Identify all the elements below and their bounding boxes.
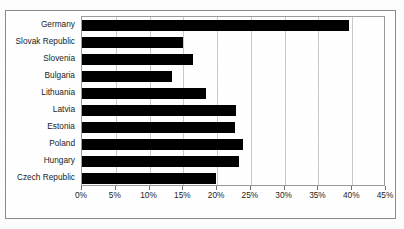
tickmark	[149, 186, 150, 190]
bar-row	[82, 139, 384, 150]
tickmark	[351, 186, 352, 190]
bar-row	[82, 37, 384, 48]
category-label: Slovak Republic	[16, 36, 76, 47]
bar-row	[82, 88, 384, 99]
bar-row	[82, 156, 384, 167]
chart-figure: GermanySlovak RepublicSloveniaBulgariaLi…	[0, 0, 404, 229]
x-tick-label: 15%	[174, 190, 191, 200]
bar	[82, 88, 206, 99]
tickmark	[81, 186, 82, 190]
category-label: Latvia	[53, 104, 75, 115]
bar	[82, 54, 193, 65]
bar-row	[82, 71, 384, 82]
x-tick-label: 45%	[377, 190, 394, 200]
bar-row	[82, 105, 384, 116]
plot-area	[81, 16, 385, 186]
tickmark	[284, 186, 285, 190]
x-tick-label: 0%	[75, 190, 87, 200]
bar	[82, 71, 172, 82]
x-tick-label: 40%	[343, 190, 360, 200]
bars-layer	[82, 17, 384, 185]
category-axis-labels: GermanySlovak RepublicSloveniaBulgariaLi…	[0, 16, 78, 186]
category-label: Lithuania	[41, 87, 75, 98]
x-tick-label: 25%	[242, 190, 259, 200]
bar-row	[82, 122, 384, 133]
category-label: Bulgaria	[45, 70, 75, 81]
bar	[82, 139, 243, 150]
category-label: Poland	[49, 138, 75, 149]
tickmark	[317, 186, 318, 190]
bar	[82, 20, 349, 31]
bar	[82, 173, 216, 184]
category-label: Slovenia	[43, 53, 75, 64]
tickmark	[250, 186, 251, 190]
bar	[82, 122, 235, 133]
tickmark	[385, 186, 386, 190]
bar-row	[82, 173, 384, 184]
tickmark	[216, 186, 217, 190]
bar-row	[82, 54, 384, 65]
bar	[82, 105, 236, 116]
x-tick-label: 35%	[309, 190, 326, 200]
x-tick-label: 20%	[208, 190, 225, 200]
category-label: Estonia	[47, 121, 75, 132]
bar-row	[82, 20, 384, 31]
x-tick-label: 10%	[140, 190, 157, 200]
x-axis-tick-labels: 0%5%10%15%20%25%30%35%40%45%	[81, 190, 385, 204]
bar	[82, 37, 183, 48]
tickmark	[182, 186, 183, 190]
category-label: Germany	[41, 19, 75, 30]
bar	[82, 156, 239, 167]
category-label: Czech Republic	[17, 172, 75, 183]
tickmark	[115, 186, 116, 190]
x-tick-label: 30%	[275, 190, 292, 200]
category-label: Hungary	[44, 155, 75, 166]
x-tick-label: 5%	[109, 190, 121, 200]
